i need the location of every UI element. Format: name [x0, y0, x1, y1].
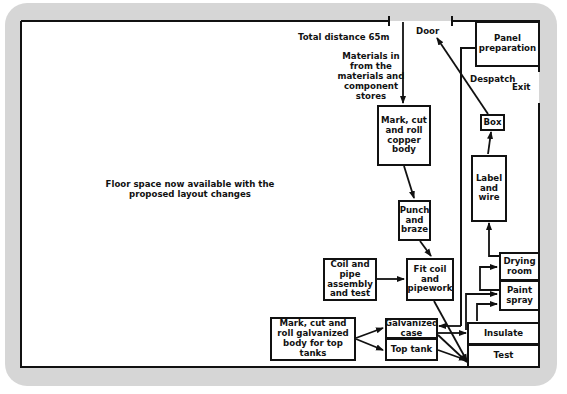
- box-station: Box: [480, 114, 505, 131]
- drying-room-box: Drying room: [499, 252, 540, 281]
- panel-preparation-box: Panel preparation: [475, 21, 540, 67]
- punch-braze-box: Punch and braze: [398, 200, 431, 241]
- insulate-box: Insulate: [467, 322, 540, 345]
- paint-spray-box: Paint spray: [499, 280, 540, 311]
- top-tank-box: Top tank: [385, 338, 438, 361]
- label-wire-box: Label and wire: [471, 155, 507, 222]
- fit-coil-box: Fit coil and pipework: [406, 258, 454, 301]
- coil-pipe-box: Coil and pipe assembly and test: [323, 258, 377, 301]
- mark-cut-copper-box: Mark, cut and roll copper body: [377, 105, 431, 166]
- mark-cut-galvanized-box: Mark, cut and roll galvanized body for t…: [270, 317, 356, 361]
- exit-label: Exit: [512, 83, 530, 93]
- despatch-label: Despatch: [470, 75, 515, 85]
- test-box: Test: [467, 344, 540, 368]
- total-distance-label: Total distance 65m: [298, 33, 390, 43]
- materials-in-label: Materials in from the materials and comp…: [335, 52, 407, 101]
- galvanized-case-box: Galvanized case: [385, 318, 438, 339]
- door-label: Door: [416, 27, 439, 37]
- floor-space-label: Floor space now available with the propo…: [100, 180, 280, 200]
